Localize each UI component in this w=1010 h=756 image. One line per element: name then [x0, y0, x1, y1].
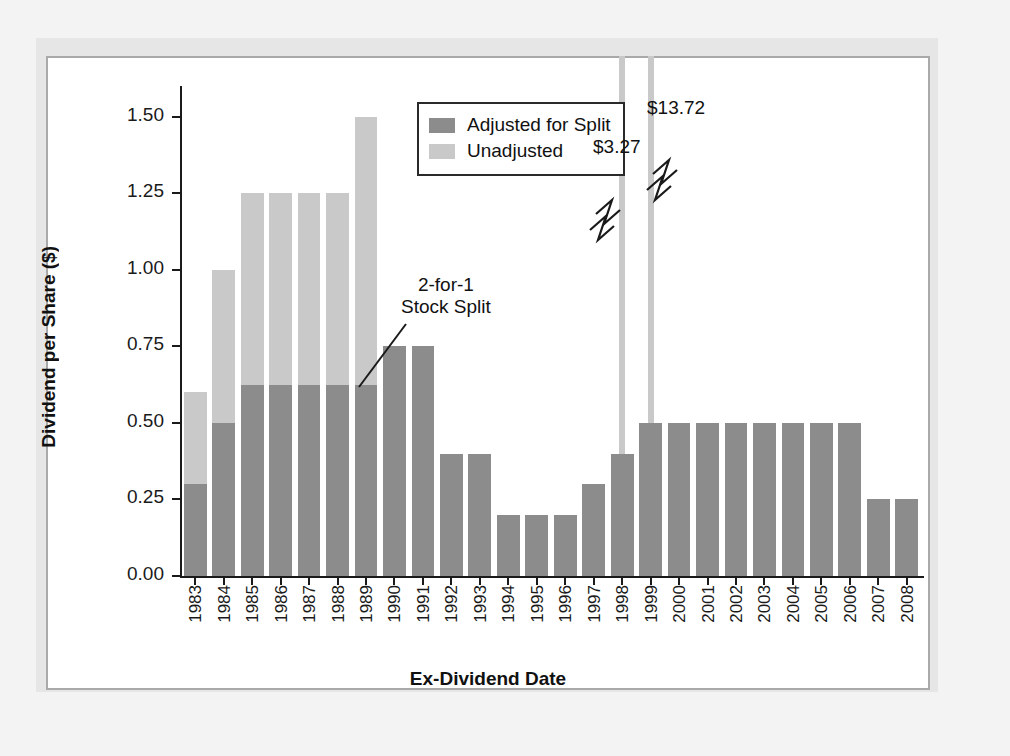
break-label-1999: $13.72 [647, 97, 705, 119]
dividend-bar-chart: Dividend per Share ($) Ex-Dividend Date … [46, 56, 930, 690]
break-label-1998: $3.27 [593, 136, 641, 158]
axis-break-icon-1999 [643, 146, 703, 216]
axis-break-icon-1998 [586, 186, 646, 256]
stock-split-leader-line [46, 56, 930, 690]
